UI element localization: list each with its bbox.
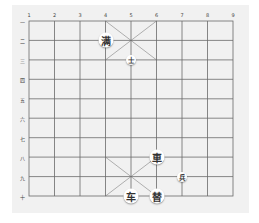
row-label: 十 <box>20 192 25 199</box>
column-label: 4 <box>104 12 107 18</box>
row-label: 一 <box>20 18 25 25</box>
row-label: 三 <box>20 56 25 63</box>
xiangqi-piece[interactable]: 兵 <box>177 172 187 182</box>
column-label: 3 <box>78 12 81 18</box>
xiangqi-piece[interactable]: 满 <box>98 33 113 48</box>
row-label: 四 <box>20 76 25 83</box>
row-label: 八 <box>20 154 25 161</box>
row-label: 九 <box>20 173 25 180</box>
column-label: 7 <box>180 12 183 18</box>
xiangqi-piece[interactable]: 車 <box>149 150 164 165</box>
column-label: 6 <box>155 12 158 18</box>
xiangqi-piece[interactable]: 士 <box>126 55 136 65</box>
row-label: 二 <box>20 37 25 44</box>
column-label: 5 <box>129 12 132 18</box>
column-label: 9 <box>231 12 234 18</box>
column-label: 2 <box>53 12 56 18</box>
column-label: 8 <box>206 12 209 18</box>
xiangqi-piece[interactable]: 车 <box>124 188 139 203</box>
column-label: 1 <box>27 12 30 18</box>
xiangqi-board-view: 123456789一二三四五六七八九十满士車兵车替 <box>0 0 259 223</box>
xiangqi-piece[interactable]: 替 <box>149 188 164 203</box>
row-label: 六 <box>20 115 25 122</box>
row-label: 七 <box>20 134 25 141</box>
row-label: 五 <box>20 95 25 102</box>
